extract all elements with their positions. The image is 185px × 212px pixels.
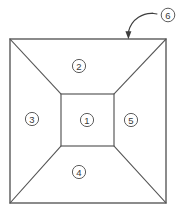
callout-label-6-text: 6 [165,10,170,21]
figure-diagram: 1 2 3 4 5 6 [0,0,185,212]
face-label-5-text: 5 [128,115,133,126]
callout-arrowhead-icon [125,31,131,39]
face-label-2-text: 2 [76,61,81,72]
callout-leader-curve [128,13,153,32]
face-label-3-text: 3 [29,114,34,125]
figure-canvas: 1 2 3 4 5 6 [0,0,185,212]
callout-label-6: 6 [161,8,175,22]
face-label-1-text: 1 [84,115,89,126]
face-label-4-text: 4 [76,167,81,178]
